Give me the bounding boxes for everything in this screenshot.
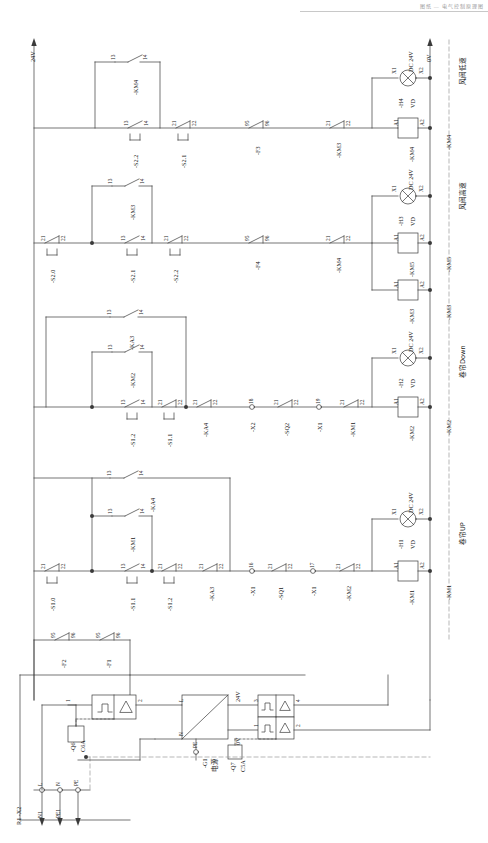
function-device-km5: -KM5: [446, 257, 452, 272]
sq1-t2: 22: [288, 564, 293, 569]
km2-coil-a1: A1: [394, 398, 399, 405]
km3-seal-t1: 13: [108, 179, 113, 184]
s2-2b-tag: -S2.2: [173, 270, 179, 283]
km4-coil-a1: A1: [394, 119, 399, 126]
ka4-nc-tag: -KA4: [203, 423, 209, 437]
h1-x2: X2: [419, 508, 424, 515]
km3-nc-t2: 22: [346, 121, 351, 126]
ka4-seal-t1: 13: [107, 471, 112, 476]
rail-0v-label: 0V: [426, 54, 432, 62]
x1-16-t1: 16: [249, 563, 254, 568]
x2-18-tag: -X2: [250, 422, 256, 432]
km1-nc-tag: -KM1: [350, 422, 356, 437]
x2-18-t1: 18: [249, 399, 254, 404]
km2-nc-t1: 21: [336, 564, 341, 569]
km5-coil-tag: -KM5: [409, 262, 415, 277]
km1-seal-t1: 13: [108, 509, 113, 514]
h2-x2: X2: [419, 347, 424, 354]
km5-coil-a1: A1: [394, 234, 399, 241]
h3-spec: DC 24V: [408, 169, 414, 190]
f4-t2: 96: [265, 236, 270, 241]
f4-t1: 95: [245, 236, 250, 241]
s2-1b-tag: -S2.1: [130, 270, 136, 283]
km1-coil-a1: A1: [394, 562, 399, 569]
x1-17-t1: 17: [310, 563, 315, 568]
km1-seal-t2: 14: [140, 509, 145, 514]
km1-coil-a2: A2: [420, 562, 425, 569]
h4-x1: X1: [392, 67, 397, 74]
h4-tag: -H4: [398, 98, 404, 108]
s1-2b-t2: 22: [178, 564, 183, 569]
s1-2b-tag: -S1.2: [167, 598, 173, 611]
km1-nc-t2: 22: [360, 400, 365, 405]
km2-seal-t2: 14: [140, 345, 145, 350]
km4-coil-tag: -KM4: [409, 147, 415, 162]
f3-tag: -F3: [255, 146, 261, 155]
s2-0-t1: 21: [41, 236, 46, 241]
f1-t1: 95: [96, 633, 101, 638]
km2-nc-tag: -KM2: [346, 586, 352, 601]
q7-p4: 4: [296, 699, 301, 702]
h3-diode: VD: [410, 217, 416, 226]
ka3-nc-tag: -KA3: [209, 587, 215, 601]
h3-tag: -H3: [398, 216, 404, 226]
sq1-tag: -SQ1: [278, 587, 284, 600]
km1-seal-tag: -KM1: [130, 537, 136, 552]
f2-t2: 96: [71, 633, 76, 638]
q7-p1: 1: [254, 724, 259, 727]
km3-coil-tag: -KM3: [409, 309, 415, 324]
function-label-km5: 风阀高速: [460, 182, 467, 210]
ka4-nc-t2: 22: [213, 400, 218, 405]
km4-coil-a2: A2: [420, 119, 425, 126]
rail-24v-label: 24V: [30, 51, 36, 62]
f2-tag: -F2: [61, 659, 67, 668]
h2-spec: DC 24V: [408, 331, 414, 352]
psu-tag: -G1: [202, 758, 208, 768]
h1-x1: X1: [392, 508, 397, 515]
sq2-t1: 21: [274, 400, 279, 405]
sq2-tag: -SQ2: [284, 423, 290, 436]
x1-19-tag: -X1: [317, 422, 323, 432]
s1-2-tag: -S1.2: [130, 434, 136, 447]
sq2-t2: 22: [294, 400, 299, 405]
terminal-pin-pe: PE: [74, 780, 79, 786]
km3-nc-tag: -KM3: [336, 143, 342, 158]
km2-seal-tag: -KM2: [130, 373, 136, 388]
s1-1-tag: -S1.1: [167, 434, 173, 447]
km5-coil-a2: A2: [420, 234, 425, 241]
km4-seal-t1: 13: [111, 55, 116, 60]
f3-t2: 96: [265, 121, 270, 126]
s2-1-t2: 22: [192, 121, 197, 126]
f3-t1: 95: [245, 121, 250, 126]
ka3-seal-t2: 14: [139, 310, 144, 315]
terminal-wire-pe1: PE1: [56, 809, 61, 818]
s1-1b-t2: 14: [141, 564, 146, 569]
function-device-km1: -KM1: [446, 585, 452, 600]
ka3-nc-t2: 22: [219, 564, 224, 569]
s2-2b-t1: 21: [164, 236, 169, 241]
psu-in-l: L: [179, 699, 184, 702]
km4-nc-t1: 21: [326, 236, 331, 241]
s1-2-t2: 14: [141, 400, 146, 405]
h1-diode: VD: [410, 540, 416, 549]
function-device-km3: -KM3: [446, 305, 452, 320]
h4-diode: VD: [410, 99, 416, 108]
km1-coil-tag: -KM1: [409, 590, 415, 605]
ka3-seal-t1: 13: [107, 310, 112, 315]
s2-0-t2: 22: [61, 236, 66, 241]
h1-tag: -H1: [398, 539, 404, 549]
q7-p2: 2: [296, 724, 301, 727]
km2-coil-a2: A2: [420, 398, 425, 405]
s1-0-t1: 21: [41, 564, 46, 569]
km3-seal-tag: -KM3: [130, 205, 136, 220]
q6-rating: C6A: [80, 740, 86, 752]
h1-spec: DC 24V: [408, 492, 414, 513]
h3-x2: X2: [419, 185, 424, 192]
q7-rating: C5A: [240, 760, 246, 772]
s1-0-t2: 22: [61, 564, 66, 569]
terminal-pin-l: L: [38, 783, 43, 786]
km4-seal-tag: -KM4: [133, 80, 139, 95]
h2-diode: VD: [410, 379, 416, 388]
function-label-km2: 卷帘Down: [460, 345, 467, 378]
km3-seal-t2: 14: [140, 179, 145, 184]
